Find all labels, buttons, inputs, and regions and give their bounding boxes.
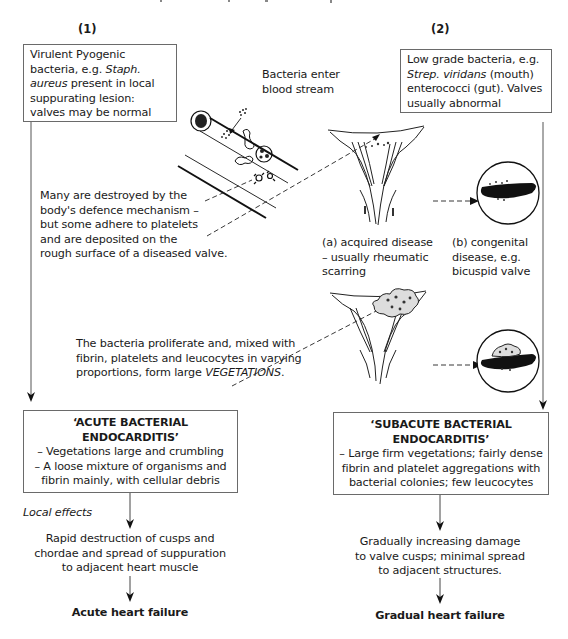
- proliferate-line-2: fibrin, platelets and leucocytes in vary…: [76, 352, 302, 367]
- defence-line-5: rough surface of a diseased valve.: [40, 247, 227, 262]
- low-grade-bacteria-box: Low grade bacteria, e.g. Strep. viridans…: [400, 49, 552, 113]
- acute-title-2: ENDOCARDITIS’: [24, 431, 237, 446]
- virulent-text: bacteria, e.g.: [30, 63, 105, 76]
- virulent-line-3: aureus present in local: [30, 77, 176, 92]
- lowgrade-line-1: Low grade bacteria, e.g.: [407, 53, 551, 68]
- column-label-2: (2): [431, 22, 450, 36]
- local-effects-label: Local effects: [23, 506, 92, 521]
- congenital-valve-illustration: [477, 162, 539, 224]
- lowgrade-line-2: Strep. viridans (mouth): [407, 68, 551, 83]
- congenital-disease-caption: (b) congenital disease, e.g. bicuspid va…: [452, 236, 530, 280]
- organism-name: Staph.: [105, 63, 140, 76]
- vegetation-congenital-illustration: [477, 330, 539, 392]
- lowgrade-text: (mouth): [486, 68, 533, 81]
- vegetation-valve-illustration: [330, 289, 426, 384]
- virulent-line-5: valves may be normal: [30, 106, 176, 121]
- virulent-line-4: suppurating lesion:: [30, 92, 176, 107]
- gradual-heart-failure: Gradual heart failure: [340, 609, 540, 624]
- organism-name: Strep. viridans: [407, 68, 486, 81]
- defence-mechanism-text: Many are destroyed by the body's defence…: [40, 189, 227, 262]
- column-label-1: (1): [78, 22, 97, 36]
- bloodstream-line-1: Bacteria enter: [262, 68, 340, 83]
- left-flow-connector: [27, 122, 35, 402]
- proliferate-line-1: The bacteria proliferate and, mixed with: [76, 337, 302, 352]
- acquired-disease-caption: (a) acquired disease – usually rheumatic…: [322, 236, 433, 280]
- acute-outcome-line-1: Rapid destruction of cusps and: [30, 532, 230, 547]
- cut-off-header: [160, 0, 332, 3]
- subacute-endocarditis-box: ‘SUBACUTE BACTERIAL ENDOCARDITIS’ – Larg…: [333, 412, 549, 495]
- right-flow-connector: [539, 122, 547, 410]
- acute-title-1: ‘ACUTE BACTERIAL: [24, 416, 237, 431]
- vegetations-term: VEGETATIONS: [205, 366, 281, 379]
- subacute-title-1: ‘SUBACUTE BACTERIAL: [334, 418, 548, 433]
- defence-line-2: body's defence mechanism –: [40, 204, 227, 219]
- proliferate-line-3: proportions, form large VEGETATIONS.: [76, 366, 302, 381]
- subacute-outcome-line-2: to valve cusps; minimal spread: [340, 550, 540, 565]
- acquired-line-3: scarring: [322, 265, 433, 280]
- acute-line-1: – Vegetations large and crumbling: [24, 445, 237, 460]
- acquired-line-1: (a) acquired disease: [322, 236, 433, 251]
- defence-line-3: but some adhere to platelets: [40, 218, 227, 233]
- defence-line-1: Many are destroyed by the: [40, 189, 227, 204]
- virulent-bacteria-box: Virulent Pyogenic bacteria, e.g. Staph. …: [23, 44, 177, 122]
- bloodstream-label: Bacteria enter blood stream: [262, 68, 340, 97]
- lowgrade-line-4: usually abnormal: [407, 97, 551, 112]
- proliferate-text: proportions, form large: [76, 366, 205, 379]
- subacute-line-3: bacterial colonies; few leucocytes: [334, 476, 548, 491]
- period: .: [281, 366, 284, 379]
- subacute-line-2: fibrin and platelet aggregations with: [334, 462, 548, 477]
- subacute-effects-arrow: [436, 495, 444, 531]
- subacute-failure-arrow: [436, 578, 444, 604]
- acute-line-2: – A loose mixture of organisms and: [24, 460, 237, 475]
- proliferation-text: The bacteria proliferate and, mixed with…: [76, 337, 302, 381]
- virulent-line-2: bacteria, e.g. Staph.: [30, 63, 176, 78]
- acute-outcome-text: Rapid destruction of cusps and chordae a…: [30, 532, 230, 576]
- bloodstream-line-2: blood stream: [262, 83, 340, 98]
- subacute-outcome-line-1: Gradually increasing damage: [340, 535, 540, 550]
- congenital-line-2: disease, e.g.: [452, 251, 530, 266]
- subacute-outcome-text: Gradually increasing damage to valve cus…: [340, 535, 540, 579]
- subacute-title-2: ENDOCARDITIS’: [334, 433, 548, 448]
- acute-outcome-line-3: to adjacent heart muscle: [30, 561, 230, 576]
- acute-failure-arrow: [126, 576, 134, 602]
- acute-line-3: fibrin mainly, with cellular debris: [24, 474, 237, 489]
- acute-effects-arrow: [126, 493, 134, 529]
- congenital-line-3: bicuspid valve: [452, 265, 530, 280]
- organism-name: aureus: [30, 77, 67, 90]
- acquired-line-2: – usually rheumatic: [322, 251, 433, 266]
- subacute-outcome-line-3: to adjacent structures.: [340, 564, 540, 579]
- acute-heart-failure: Acute heart failure: [30, 606, 230, 621]
- defence-line-4: and are deposited on the: [40, 233, 227, 248]
- subacute-line-1: – Large firm vegetations; fairly dense: [334, 447, 548, 462]
- virulent-text: present in local: [67, 77, 154, 90]
- lowgrade-line-3: enterococci (gut). Valves: [407, 82, 551, 97]
- acute-endocarditis-box: ‘ACUTE BACTERIAL ENDOCARDITIS’ – Vegetat…: [23, 410, 238, 493]
- acute-outcome-line-2: chordae and spread of suppuration: [30, 547, 230, 562]
- congenital-line-1: (b) congenital: [452, 236, 530, 251]
- virulent-line-1: Virulent Pyogenic: [30, 48, 176, 63]
